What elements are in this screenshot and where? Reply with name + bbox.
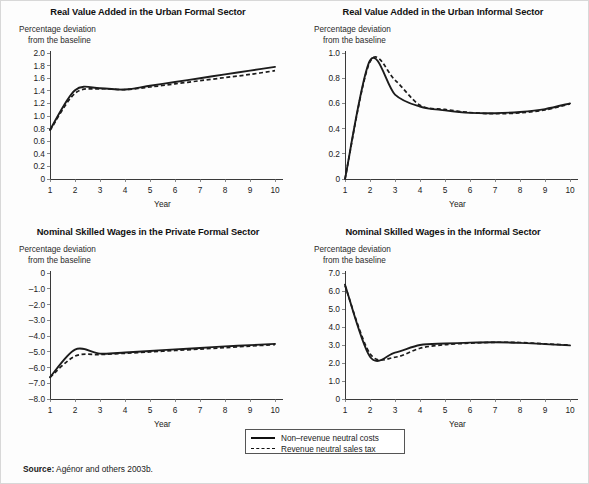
legend-dashed-line-icon (250, 445, 276, 454)
x-tick-label: 6 (173, 405, 178, 415)
chart-title: Nominal Skilled Wages in the Private For… (3, 227, 293, 237)
x-tick-label: 4 (123, 185, 128, 195)
chart-title: Nominal Skilled Wages in the Informal Se… (298, 227, 588, 237)
y-tick-label: 1.8 (33, 61, 45, 71)
y-tick-label: 6.0 (328, 286, 340, 296)
y-tick-label: 0.6 (328, 98, 340, 108)
legend-entry-dashed: Revenue neutral sales tax (250, 444, 400, 454)
x-tick-label: 6 (468, 405, 473, 415)
y-axis-note: Percentage deviationfrom the baseline (314, 25, 391, 46)
plot-area: 0–1.0–2.0–3.0–4.0–5.0–6.0–7.0–8.01234567… (3, 265, 293, 435)
x-tick-label: 5 (443, 185, 448, 195)
x-tick-label: 5 (148, 405, 153, 415)
y-axis-note-line1: Percentage deviation (314, 25, 391, 34)
x-tick-label: 7 (493, 405, 498, 415)
y-tick-label: 0.2 (33, 161, 45, 171)
y-tick-label: –1.0 (29, 284, 46, 294)
y-tick-label: 0 (40, 174, 45, 184)
x-axis-title: Year (154, 419, 171, 429)
y-tick-label: 0.4 (328, 124, 340, 134)
x-tick-label: 3 (98, 185, 103, 195)
x-tick-label: 4 (123, 405, 128, 415)
x-tick-label: 2 (368, 405, 373, 415)
plot-area: 00.20.40.60.81.01.21.41.61.82.0123456789… (3, 45, 293, 215)
plot-area: 01.02.03.04.05.06.07.012345678910Year (298, 265, 588, 435)
y-tick-label: –7.0 (29, 378, 46, 388)
x-axis-title: Year (154, 199, 171, 209)
y-tick-label: 0.6 (33, 136, 45, 146)
y-tick-label: 2.0 (328, 358, 340, 368)
y-tick-label: 7.0 (328, 268, 340, 278)
y-tick-label: 1.0 (328, 48, 340, 58)
series-line-solid (345, 58, 570, 179)
x-tick-label: 10 (565, 185, 575, 195)
x-tick-label: 8 (518, 405, 523, 415)
y-tick-label: 0 (335, 174, 340, 184)
y-axis-note: Percentage deviationfrom the baseline (314, 245, 391, 266)
y-tick-label: 4.0 (328, 322, 340, 332)
x-tick-label: 7 (198, 405, 203, 415)
x-tick-label: 5 (148, 185, 153, 195)
series-line-solid (50, 344, 275, 377)
series-line-dashed (345, 57, 570, 179)
y-tick-label: 1.0 (33, 111, 45, 121)
y-tick-label: –6.0 (29, 363, 46, 373)
y-axis-note-line1: Percentage deviation (19, 25, 96, 34)
x-tick-label: 10 (270, 185, 280, 195)
y-axis-note: Percentage deviationfrom the baseline (19, 25, 96, 46)
y-tick-label: 1.6 (33, 73, 45, 83)
x-tick-label: 1 (343, 185, 348, 195)
x-tick-label: 3 (393, 185, 398, 195)
y-tick-label: –5.0 (29, 347, 46, 357)
x-tick-label: 1 (48, 405, 53, 415)
x-tick-label: 9 (248, 185, 253, 195)
series-line-solid (345, 285, 570, 361)
y-axis-note-line1: Percentage deviation (19, 245, 96, 254)
chart-panel-private-formal-wages: Nominal Skilled Wages in the Private For… (3, 225, 293, 437)
x-tick-label: 3 (393, 405, 398, 415)
x-tick-label: 8 (223, 185, 228, 195)
y-tick-label: 0 (335, 394, 340, 404)
y-tick-label: 0.4 (33, 149, 45, 159)
y-tick-label: 2.0 (33, 48, 45, 58)
legend-entry-solid: Non–revenue neutral costs (250, 433, 400, 443)
x-tick-label: 9 (543, 405, 548, 415)
x-tick-label: 10 (565, 405, 575, 415)
x-axis-title: Year (449, 419, 466, 429)
chart-panel-urban-informal: Real Value Added in the Urban Informal S… (298, 5, 588, 217)
y-tick-label: 0.8 (33, 124, 45, 134)
x-tick-label: 4 (418, 185, 423, 195)
x-tick-label: 5 (443, 405, 448, 415)
x-tick-label: 2 (73, 405, 78, 415)
chart-panel-urban-formal: Real Value Added in the Urban Formal Sec… (3, 5, 293, 217)
y-tick-label: 1.2 (33, 98, 45, 108)
y-tick-label: –4.0 (29, 331, 46, 341)
chart-title: Real Value Added in the Urban Formal Sec… (3, 7, 293, 17)
y-tick-label: –3.0 (29, 315, 46, 325)
series-line-dashed (50, 71, 275, 131)
y-tick-label: 5.0 (328, 304, 340, 314)
y-tick-label: 0.2 (328, 149, 340, 159)
source-label: Source: (23, 464, 54, 474)
x-tick-label: 1 (48, 185, 53, 195)
y-axis-note: Percentage deviationfrom the baseline (19, 245, 96, 266)
source-text: Agénor and others 2003b. (54, 464, 153, 474)
y-tick-label: –2.0 (29, 300, 46, 310)
y-tick-label: 0 (40, 268, 45, 278)
x-tick-label: 9 (543, 185, 548, 195)
y-tick-label: 3.0 (328, 340, 340, 350)
x-tick-label: 8 (223, 405, 228, 415)
x-tick-label: 7 (198, 185, 203, 195)
x-tick-label: 6 (468, 185, 473, 195)
x-tick-label: 2 (368, 185, 373, 195)
x-tick-label: 7 (493, 185, 498, 195)
series-line-dashed (345, 286, 570, 361)
y-tick-label: 1.0 (328, 376, 340, 386)
chart-title: Real Value Added in the Urban Informal S… (298, 7, 588, 17)
chart-legend: Non–revenue neutral costs Revenue neutra… (245, 429, 405, 454)
y-tick-label: 1.4 (33, 86, 45, 96)
figure-panel-group: Real Value Added in the Urban Formal Sec… (0, 0, 589, 484)
y-tick-label: 0.8 (328, 73, 340, 83)
x-tick-label: 8 (518, 185, 523, 195)
plot-area: 00.20.40.60.81.012345678910Year (298, 45, 588, 215)
